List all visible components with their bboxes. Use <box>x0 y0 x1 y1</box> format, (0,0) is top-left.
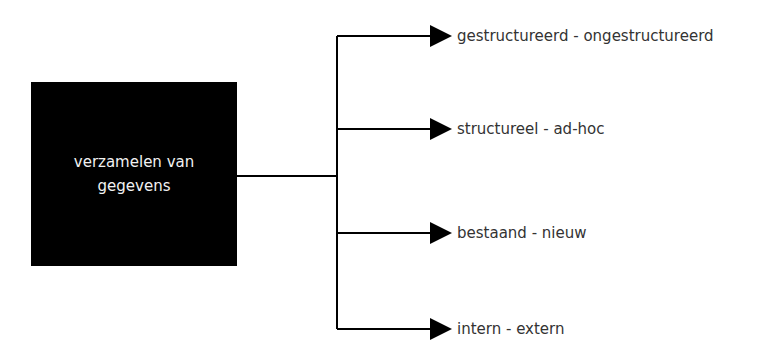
branch-label-1: gestructureerd - ongestructureerd <box>457 27 714 45</box>
branch-arrow-2 <box>337 118 452 140</box>
arrowhead-icon <box>430 25 452 47</box>
arrowhead-icon <box>430 222 452 244</box>
branch-arrow-1 <box>337 25 452 47</box>
arrowhead-icon <box>430 318 452 340</box>
arrowhead-icon <box>430 118 452 140</box>
branch-arrow-4 <box>337 318 452 340</box>
branch-arrow-3 <box>337 222 452 244</box>
connector-lines <box>0 0 762 363</box>
branch-label-2: structureel - ad-hoc <box>457 120 604 138</box>
branch-label-3: bestaand - nieuw <box>457 224 587 242</box>
branch-label-4: intern - extern <box>457 320 565 338</box>
